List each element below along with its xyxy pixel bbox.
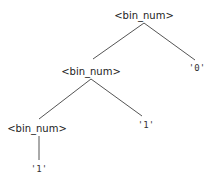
edge-n1-n2	[39, 79, 91, 119]
edge-n1-leaf1a	[91, 79, 142, 116]
leaf-one-b: '1'	[31, 164, 47, 174]
node-bin-num-level3: <bin_num>	[7, 123, 67, 134]
edge-root-leaf0	[144, 23, 195, 60]
tree-edges	[0, 0, 212, 181]
leaf-zero: '0'	[189, 63, 205, 73]
leaf-one-a: '1'	[138, 120, 154, 130]
node-bin-num-level2: <bin_num>	[61, 66, 121, 77]
node-root: <bin_num>	[114, 10, 174, 21]
edge-root-n1	[93, 23, 144, 59]
